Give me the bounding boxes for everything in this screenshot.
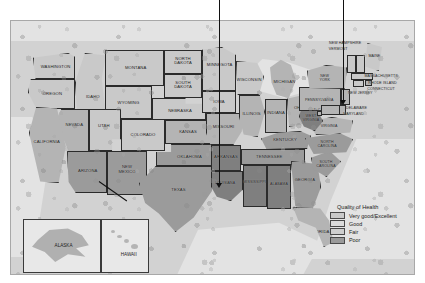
legend-title: Quality of Health <box>337 204 415 210</box>
state-michigan[interactable]: MICHIGAN <box>265 57 301 101</box>
state-missouri[interactable]: MISSOURI <box>206 113 244 145</box>
state-label-michigan: MICHIGAN <box>273 79 295 84</box>
state-connecticut[interactable]: CONNECTICUT <box>353 80 364 87</box>
state-label-georgia: GEORGIA <box>295 178 315 183</box>
legend-row-good[interactable]: Good <box>330 220 415 227</box>
legend-label-poor: Poor <box>349 237 360 243</box>
legend-row-fair[interactable]: Fair <box>330 228 415 235</box>
state-label-oregon: OREGON <box>43 92 62 97</box>
alaska-landmass <box>32 227 90 265</box>
hawaii-island-3 <box>124 239 129 243</box>
inset-hawaii[interactable]: HAWAII <box>101 219 149 273</box>
state-mississippi[interactable]: MISSISSIPPI <box>243 165 267 207</box>
hawaii-island-2 <box>117 235 122 238</box>
state-label-kansas: KANSAS <box>179 130 197 135</box>
state-new-york[interactable]: NEW YORK <box>307 65 347 89</box>
state-label-utah: UTAH <box>98 124 110 129</box>
canada-north <box>11 20 415 41</box>
state-label-south-dakota: SOUTH DAKOTA <box>174 81 192 90</box>
annotation-line-left <box>219 0 220 186</box>
legend-label-good: Good <box>349 221 362 227</box>
state-massachusetts[interactable]: MASSACHUSETTS <box>351 73 373 80</box>
state-label-wisconsin: WISCONSIN <box>236 78 261 83</box>
inset-alaska[interactable]: ALASKA <box>23 219 101 273</box>
state-kansas[interactable]: KANSAS <box>165 120 211 144</box>
state-new-hampshire[interactable]: NEW HAMPSHIRE <box>356 55 365 73</box>
state-label-maine: MAINE <box>368 54 380 58</box>
state-vermont[interactable]: VERMONT <box>347 55 356 73</box>
state-label-new-hampshire: NEW HAMPSHIRE <box>329 41 361 45</box>
state-label-kentucky: KENTUCKY <box>273 138 297 143</box>
state-label-south-carolina: SOUTH CAROLINA <box>316 160 335 168</box>
state-rhode-island[interactable]: RHODE ISLAND <box>365 80 372 86</box>
caption-strip <box>0 275 425 283</box>
legend-swatch-fair <box>330 228 345 235</box>
state-label-oklahoma: OKLAHOMA <box>177 154 202 159</box>
state-maine[interactable]: MAINE <box>363 43 385 71</box>
hawaii-island-1 <box>111 230 115 233</box>
state-idaho[interactable]: IDAHO <box>75 53 106 117</box>
annotation-line-right <box>343 0 344 103</box>
legend-swatch-poor <box>330 237 345 244</box>
state-oregon[interactable]: OREGON <box>28 79 75 109</box>
state-maryland[interactable]: MARYLAND <box>321 105 340 115</box>
state-label-idaho: IDAHO <box>86 95 100 100</box>
state-alabama[interactable]: ALABAMA <box>267 165 291 209</box>
state-indiana[interactable]: INDIANA <box>265 99 287 133</box>
state-label-new-jersey: NEW JERSEY <box>348 91 373 95</box>
state-delaware[interactable]: DELAWARE <box>339 105 346 115</box>
state-label-california: CALIFORNIA <box>34 140 60 145</box>
state-arizona[interactable]: ARIZONA <box>67 151 107 193</box>
state-label-delaware: DELAWARE <box>346 106 367 110</box>
state-south-dakota[interactable]: SOUTH DAKOTA <box>164 74 202 98</box>
hawaii-island-4 <box>131 244 138 249</box>
state-nebraska[interactable]: NEBRASKA <box>152 98 206 120</box>
state-label-arizona: ARIZONA <box>78 169 97 174</box>
inset-label-hawaii: HAWAII <box>121 252 137 257</box>
state-label-florida: FLORIDA <box>311 229 330 234</box>
state-label-vermont: VERMONT <box>329 47 348 51</box>
annotation-arrow-left <box>216 183 222 188</box>
state-label-maryland: MARYLAND <box>343 112 364 116</box>
state-washington[interactable]: WASHINGTON <box>33 53 75 79</box>
state-montana[interactable]: MONTANA <box>105 50 164 86</box>
state-colorado[interactable]: COLORADO <box>121 119 165 151</box>
state-utah[interactable]: UTAH <box>89 109 121 151</box>
ocean-gulf <box>171 217 321 275</box>
state-kentucky[interactable]: KENTUCKY <box>261 131 311 149</box>
state-label-missouri: MISSOURI <box>213 125 235 130</box>
state-illinois[interactable]: ILLINOIS <box>239 95 265 137</box>
state-label-massachusetts: MASSACHUSETTS <box>364 74 398 78</box>
state-label-connecticut: CONNECTICUT <box>367 87 394 91</box>
state-label-pennsylvania: PENNSYLVANIA <box>305 98 333 102</box>
map-screenshot: WASHINGTON OREGON IDAHO MONTANA WYOMING … <box>0 0 425 283</box>
state-label-nevada: NEVADA <box>66 123 84 128</box>
state-label-north-carolina: NORTH CAROLINA <box>317 140 336 148</box>
state-dc[interactable]: D.C. <box>317 111 322 116</box>
state-label-illinois: ILLINOIS <box>242 111 260 116</box>
state-wisconsin[interactable]: WISCONSIN <box>236 61 264 95</box>
state-label-tennessee: TENNESSEE <box>256 155 282 160</box>
state-texas[interactable]: TEXAS <box>139 166 215 232</box>
legend-label-fair: Fair <box>349 229 358 235</box>
legend-row-poor[interactable]: Poor <box>330 237 415 244</box>
annotation-arrow-right <box>340 100 346 105</box>
state-label-arkansas: ARKANSAS <box>214 155 238 160</box>
state-arkansas[interactable]: ARKANSAS <box>211 145 241 171</box>
legend-row-very-good-excellent[interactable]: Very good/Excellent <box>330 212 415 219</box>
legend-swatch-good <box>330 220 345 227</box>
legend-label-very-good-excellent: Very good/Excellent <box>349 213 397 219</box>
state-label-montana: MONTANA <box>125 66 146 71</box>
state-label-wyoming: WYOMING <box>118 100 140 105</box>
state-label-new-york: NEW YORK <box>319 74 330 82</box>
state-label-virginia: VIRGINIA <box>321 124 338 128</box>
state-north-dakota[interactable]: NORTH DAKOTA <box>164 50 202 74</box>
state-label-rhode-island: RHODE ISLAND <box>368 81 396 85</box>
state-label-alabama: ALABAMA <box>270 182 288 186</box>
state-label-washington: WASHINGTON <box>41 65 71 70</box>
state-label-colorado: COLORADO <box>131 133 156 138</box>
state-label-new-mexico: NEW MEXICO <box>118 166 135 175</box>
state-label-indiana: INDIANA <box>267 111 285 116</box>
state-north-carolina[interactable]: NORTH CAROLINA <box>305 133 353 155</box>
state-label-texas: TEXAS <box>171 188 185 193</box>
